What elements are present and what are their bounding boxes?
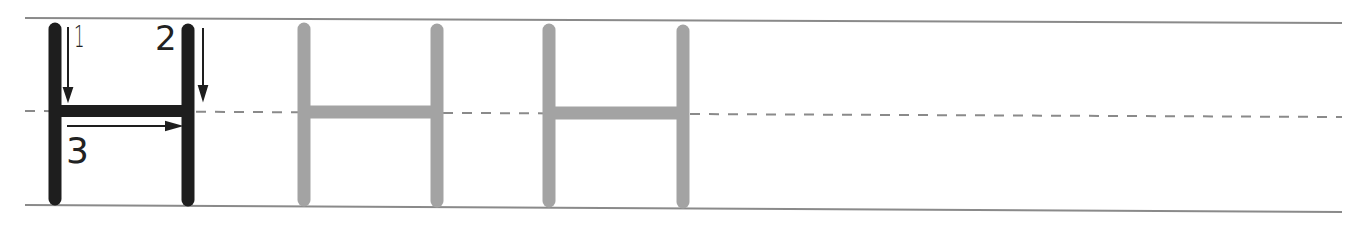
trace-letter-h-2 xyxy=(549,30,683,202)
arrow-3-head-icon xyxy=(166,122,180,130)
arrow-2-head-icon xyxy=(199,86,207,99)
arrow-1-head-icon xyxy=(64,88,72,100)
top-guide-line xyxy=(25,18,1342,23)
trace-letter-h-1 xyxy=(304,29,437,201)
stroke-number-2: 2 xyxy=(155,21,177,55)
stroke-number-3: 3 xyxy=(66,133,89,169)
handwriting-practice-sheet xyxy=(0,0,1363,228)
stroke-number-1: 1 xyxy=(74,22,85,52)
